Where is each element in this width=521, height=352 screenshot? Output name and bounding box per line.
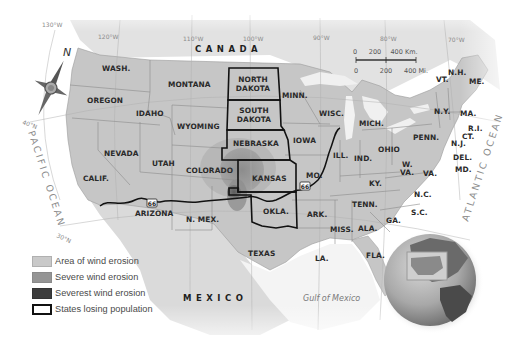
svg-text:LA.: LA. bbox=[315, 254, 329, 263]
legend-swatch bbox=[32, 272, 52, 283]
svg-text:OREGON: OREGON bbox=[87, 96, 123, 105]
svg-text:70°W: 70°W bbox=[448, 36, 465, 43]
svg-text:COLORADO: COLORADO bbox=[186, 166, 233, 175]
compass-north-label: N bbox=[63, 46, 71, 59]
svg-text:MO.: MO. bbox=[306, 171, 323, 180]
svg-text:80°W: 80°W bbox=[380, 35, 397, 42]
svg-text:S.C.: S.C. bbox=[411, 208, 428, 217]
svg-text:SOUTH: SOUTH bbox=[239, 106, 268, 115]
legend-label: Severe wind erosion bbox=[55, 272, 138, 282]
svg-text:N.Y.: N.Y. bbox=[434, 107, 450, 116]
svg-text:R.I.: R.I. bbox=[468, 124, 483, 133]
svg-text:CALIF.: CALIF. bbox=[83, 174, 109, 183]
svg-text:N.H.: N.H. bbox=[448, 68, 466, 77]
svg-text:120°W: 120°W bbox=[98, 33, 118, 40]
svg-text:DEL.: DEL. bbox=[453, 153, 472, 162]
legend-swatch bbox=[32, 304, 52, 315]
legend-label: States losing population bbox=[55, 304, 153, 314]
svg-text:OKLA.: OKLA. bbox=[263, 207, 289, 216]
svg-text:ME.: ME. bbox=[469, 77, 485, 86]
svg-text:VT.: VT. bbox=[436, 75, 449, 84]
map-legend: Area of wind erosion Severe wind erosion… bbox=[32, 253, 153, 317]
svg-text:MICH.: MICH. bbox=[359, 119, 384, 128]
svg-text:MINN.: MINN. bbox=[282, 91, 308, 100]
svg-text:100°W: 100°W bbox=[243, 35, 263, 42]
canada-label: CANADA bbox=[195, 44, 262, 54]
svg-text:NEVADA: NEVADA bbox=[104, 149, 139, 158]
svg-text:ILL.: ILL. bbox=[333, 151, 348, 160]
svg-text:PENN.: PENN. bbox=[413, 133, 439, 142]
route-66-shield-west: 66 bbox=[147, 199, 157, 207]
legend-swatch bbox=[32, 256, 52, 267]
svg-text:DAKOTA: DAKOTA bbox=[237, 115, 271, 124]
svg-text:IDAHO: IDAHO bbox=[136, 109, 164, 118]
gulf-of-mexico-label: Gulf of Mexico bbox=[303, 294, 360, 303]
svg-text:66: 66 bbox=[301, 183, 309, 190]
svg-text:KANSAS: KANSAS bbox=[252, 174, 287, 183]
legend-item-states-losing-population: States losing population bbox=[32, 301, 153, 317]
svg-text:TENN.: TENN. bbox=[352, 200, 378, 209]
svg-text:ARK.: ARK. bbox=[307, 210, 327, 219]
svg-text:GA.: GA. bbox=[386, 216, 401, 225]
legend-item-severe-erosion: Severe wind erosion bbox=[32, 269, 153, 285]
svg-text:MONTANA: MONTANA bbox=[168, 80, 211, 89]
dust-bowl-map: 66 66 130°W 120°W 110°W 100°W 90°W 80°W … bbox=[0, 0, 521, 352]
locator-globe bbox=[380, 230, 484, 334]
svg-text:NORTH: NORTH bbox=[238, 75, 268, 84]
legend-item-severest-erosion: Severest wind erosion bbox=[32, 285, 153, 301]
svg-text:DAKOTA: DAKOTA bbox=[236, 84, 270, 93]
svg-text:WISC.: WISC. bbox=[319, 109, 344, 118]
svg-text:MA.: MA. bbox=[460, 109, 476, 118]
route-66-shield-east: 66 bbox=[300, 182, 310, 190]
svg-text:200: 200 bbox=[369, 48, 381, 56]
svg-text:90°W: 90°W bbox=[313, 34, 330, 41]
svg-text:400 Mi.: 400 Mi. bbox=[404, 67, 428, 75]
svg-text:CT.: CT. bbox=[462, 132, 475, 141]
svg-text:66: 66 bbox=[148, 200, 156, 207]
svg-text:IOWA: IOWA bbox=[293, 136, 316, 145]
legend-item-wind-erosion: Area of wind erosion bbox=[32, 253, 153, 269]
legend-label: Area of wind erosion bbox=[55, 256, 139, 266]
svg-text:200: 200 bbox=[380, 67, 392, 75]
svg-text:MISS.: MISS. bbox=[330, 225, 354, 234]
svg-text:ALA.: ALA. bbox=[358, 224, 378, 233]
svg-text:MD.: MD. bbox=[455, 165, 472, 174]
svg-text:ARIZONA: ARIZONA bbox=[135, 209, 174, 218]
svg-text:130°W: 130°W bbox=[42, 21, 62, 28]
svg-text:FLA.: FLA. bbox=[366, 251, 385, 260]
svg-text:0: 0 bbox=[353, 48, 357, 56]
svg-text:WYOMING: WYOMING bbox=[177, 122, 220, 131]
mexico-label: MEXICO bbox=[183, 293, 247, 303]
legend-swatch bbox=[32, 288, 52, 299]
svg-text:UTAH: UTAH bbox=[152, 159, 175, 168]
svg-text:WASH.: WASH. bbox=[102, 64, 130, 73]
svg-text:KY.: KY. bbox=[369, 179, 382, 188]
svg-text:N. MEX.: N. MEX. bbox=[186, 215, 219, 224]
svg-text:N.C.: N.C. bbox=[414, 190, 432, 199]
legend-label: Severest wind erosion bbox=[55, 288, 145, 298]
svg-text:TEXAS: TEXAS bbox=[248, 249, 275, 258]
svg-text:VA.: VA. bbox=[400, 168, 414, 177]
svg-text:NEBRASKA: NEBRASKA bbox=[233, 139, 279, 148]
svg-text:110°W: 110°W bbox=[183, 35, 203, 42]
svg-text:400 Km.: 400 Km. bbox=[390, 48, 417, 56]
svg-text:0: 0 bbox=[354, 67, 358, 75]
svg-text:OHIO: OHIO bbox=[378, 145, 400, 154]
svg-text:IND.: IND. bbox=[354, 154, 372, 163]
svg-text:VA.: VA. bbox=[423, 169, 437, 178]
